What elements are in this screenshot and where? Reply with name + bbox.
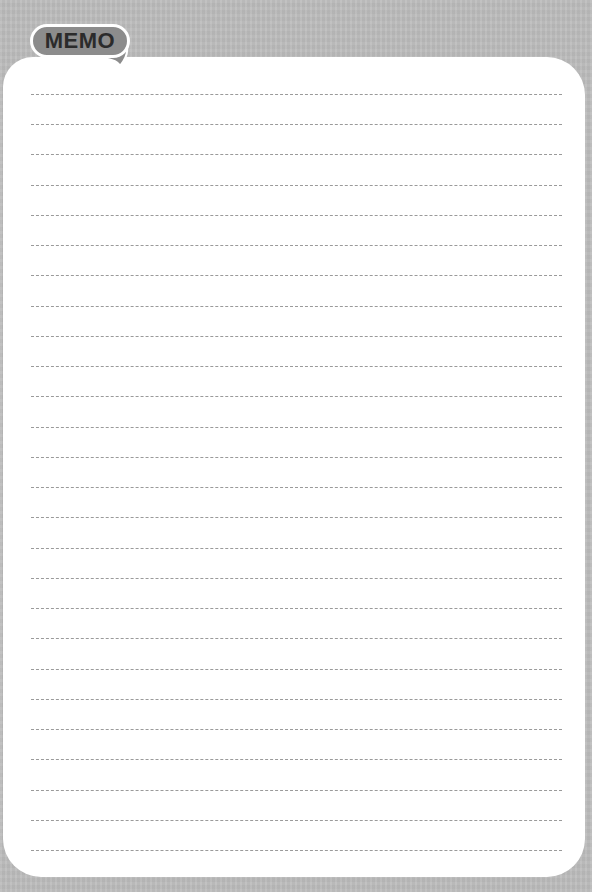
memo-tab: MEMO (30, 24, 130, 58)
ruled-line (31, 306, 562, 307)
ruled-line (31, 366, 562, 367)
ruled-line (31, 729, 562, 730)
ruled-line (31, 517, 562, 518)
ruled-line (31, 457, 562, 458)
ruled-line (31, 185, 562, 186)
ruled-line (31, 820, 562, 821)
ruled-line (31, 487, 562, 488)
ruled-line (31, 638, 562, 639)
ruled-line (31, 850, 562, 851)
ruled-line (31, 124, 562, 125)
ruled-line (31, 396, 562, 397)
ruled-line (31, 548, 562, 549)
memo-card (3, 57, 585, 877)
ruled-line (31, 669, 562, 670)
ruled-line (31, 578, 562, 579)
ruled-line (31, 154, 562, 155)
memo-title: MEMO (45, 28, 115, 54)
ruled-line (31, 790, 562, 791)
ruled-line (31, 608, 562, 609)
ruled-line (31, 275, 562, 276)
ruled-line (31, 699, 562, 700)
ruled-line (31, 759, 562, 760)
ruled-line (31, 94, 562, 95)
ruled-line (31, 215, 562, 216)
ruled-line (31, 427, 562, 428)
ruled-line (31, 336, 562, 337)
ruled-line (31, 245, 562, 246)
